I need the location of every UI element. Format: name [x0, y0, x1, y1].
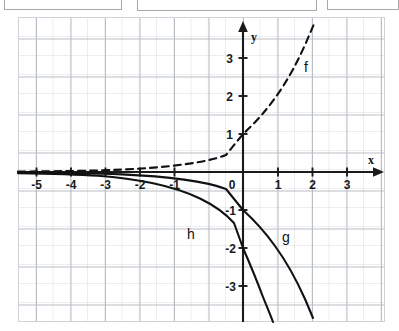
y-axis-label: y	[251, 30, 257, 44]
top-panel-left[interactable]	[4, 0, 122, 10]
coordinate-plane: -5 -4 -3 -2 -1 0 1 2 3 3 2 1 -1 -2 -3 x	[18, 17, 385, 322]
y-tick-label-3: 3	[226, 52, 233, 66]
x-tick-label-1: 1	[275, 178, 282, 192]
y-tick-label--1: -1	[225, 204, 236, 218]
x-tick-label--2: -2	[135, 178, 146, 192]
top-panel-right[interactable]	[327, 0, 399, 10]
screenshot-root: -5 -4 -3 -2 -1 0 1 2 3 3 2 1 -1 -2 -3 x	[0, 0, 399, 331]
x-tick-label-2: 2	[309, 178, 316, 192]
grid-layer	[18, 17, 385, 322]
x-tick-label--4: -4	[66, 178, 77, 192]
x-tick-label-3: 3	[344, 178, 351, 192]
y-tick-label-2: 2	[226, 90, 233, 104]
x-tick-label--3: -3	[100, 178, 111, 192]
curve-label-h: h	[187, 226, 195, 242]
top-panel-center[interactable]	[137, 0, 317, 11]
y-tick-label--3: -3	[225, 280, 236, 294]
graph-canvas: -5 -4 -3 -2 -1 0 1 2 3 3 2 1 -1 -2 -3 x	[18, 17, 385, 322]
curve-label-f: f	[304, 59, 308, 75]
x-axis-label: x	[368, 153, 374, 167]
curve-label-g: g	[282, 229, 290, 245]
x-tick-label-0: 0	[229, 178, 236, 192]
x-tick-label--1: -1	[169, 178, 180, 192]
x-tick-label--5: -5	[31, 178, 42, 192]
y-tick-label--2: -2	[225, 242, 236, 256]
y-tick-label-1: 1	[226, 128, 233, 142]
